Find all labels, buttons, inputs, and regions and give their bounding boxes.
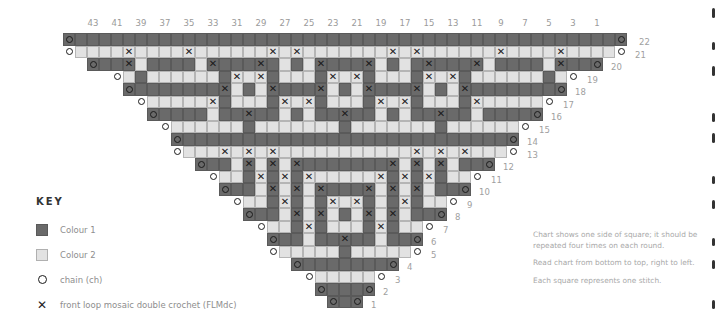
stitch-cell: [447, 133, 459, 146]
stitch-cell: [531, 58, 543, 71]
circle-icon: [328, 297, 338, 308]
chain-stitch-cell: [159, 121, 171, 134]
edge-mark: [712, 260, 715, 269]
stitch-cell: [231, 33, 243, 46]
chain-stitch-cell: [471, 171, 483, 184]
stitch-cell: [147, 71, 159, 84]
stitch-cell: [171, 83, 183, 96]
stitch-cell: [327, 58, 339, 71]
stitch-cell: [243, 96, 255, 109]
stitch-cell: [219, 46, 231, 59]
cross-icon: ✕: [292, 47, 302, 58]
stitch-cell: [339, 58, 351, 71]
stitch-cell: [591, 33, 603, 46]
stitch-cell: [147, 33, 159, 46]
cross-icon: ✕: [424, 72, 434, 83]
stitch-cell: [351, 183, 363, 196]
stitch-cell: [315, 271, 327, 284]
stitch-cell: [339, 33, 351, 46]
column-label: 29: [255, 18, 267, 28]
chain-stitch-cell: [327, 296, 339, 309]
stitch-cell: [399, 233, 411, 246]
stitch-cell: [363, 46, 375, 59]
column-label: 21: [351, 18, 363, 28]
stitch-cell: [423, 133, 435, 146]
stitch-cell: [339, 83, 351, 96]
row-label: 10: [479, 187, 497, 197]
stitch-cell: [375, 146, 387, 159]
flmdc-stitch-cell: ✕: [315, 183, 327, 196]
stitch-cell: [435, 58, 447, 71]
cross-icon: ✕: [292, 159, 302, 170]
cross-icon: ✕: [304, 97, 314, 108]
stitch-cell: [375, 83, 387, 96]
stitch-cell: [411, 71, 423, 84]
chain-stitch-cell: [543, 96, 555, 109]
stitch-cell: [411, 208, 423, 221]
cross-icon: ✕: [352, 197, 362, 208]
stitch-cell: [303, 246, 315, 259]
chart-notes: Chart shows one side of square; it shoul…: [533, 230, 713, 293]
stitch-cell: [255, 96, 267, 109]
stitch-cell: [339, 296, 351, 309]
cross-icon: ✕: [388, 209, 398, 220]
stitch-cell: [231, 158, 243, 171]
cross-icon: ✕: [436, 147, 446, 158]
cross-icon: ✕: [220, 84, 230, 95]
flmdc-stitch-cell: ✕: [363, 208, 375, 221]
stitch-cell: [579, 46, 591, 59]
column-label: 9: [495, 18, 507, 28]
stitch-cell: [339, 246, 351, 259]
stitch-cell: [363, 271, 375, 284]
stitch-cell: [183, 83, 195, 96]
flmdc-stitch-cell: ✕: [435, 158, 447, 171]
flmdc-stitch-cell: ✕: [303, 171, 315, 184]
row-label: 3: [395, 275, 413, 285]
edge-mark: [712, 8, 715, 18]
stitch-cell: [363, 158, 375, 171]
stitch-cell: [351, 58, 363, 71]
cross-icon: ✕: [460, 84, 470, 95]
stitch-cell: [303, 33, 315, 46]
stitch-cell: [279, 233, 291, 246]
circle-icon: [196, 159, 206, 170]
circle-icon: [568, 72, 578, 83]
stitch-cell: [291, 83, 303, 96]
stitch-cell: [447, 158, 459, 171]
flmdc-stitch-cell: ✕: [411, 158, 423, 171]
flmdc-stitch-cell: ✕: [267, 158, 279, 171]
stitch-cell: [159, 83, 171, 96]
stitch-cell: [219, 108, 231, 121]
cross-icon: ✕: [268, 84, 278, 95]
flmdc-stitch-cell: ✕: [555, 58, 567, 71]
stitch-cell: [459, 71, 471, 84]
chain-stitch-cell: [219, 183, 231, 196]
chain-stitch-cell: [387, 258, 399, 271]
chain-stitch-cell: [315, 283, 327, 296]
stitch-cell: [255, 158, 267, 171]
stitch-cell: [471, 133, 483, 146]
stitch-cell: [195, 133, 207, 146]
stitch-cell: [339, 46, 351, 59]
stitch-cell: [207, 121, 219, 134]
stitch-cell: [459, 171, 471, 184]
cross-icon: ✕: [292, 184, 302, 195]
stitch-cell: [339, 196, 351, 209]
cross-icon: ✕: [376, 222, 386, 233]
cross-icon: ✕: [256, 59, 266, 70]
stitch-cell: [483, 96, 495, 109]
stitch-cell: [147, 96, 159, 109]
circle-icon: [36, 275, 48, 284]
circle-icon: [376, 272, 386, 283]
flmdc-stitch-cell: ✕: [339, 108, 351, 121]
stitch-cell: [471, 33, 483, 46]
flmdc-stitch-cell: ✕: [411, 146, 423, 159]
flmdc-stitch-cell: ✕: [471, 96, 483, 109]
flmdc-stitch-cell: ✕: [459, 146, 471, 159]
stitch-cell: [231, 96, 243, 109]
flmdc-stitch-cell: ✕: [363, 83, 375, 96]
stitch-cell: [159, 46, 171, 59]
stitch-cell: [207, 71, 219, 84]
stitch-cell: [459, 46, 471, 59]
stitch-cell: [507, 58, 519, 71]
